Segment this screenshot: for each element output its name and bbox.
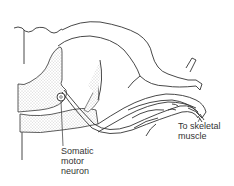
motor-neuron-cell-body bbox=[57, 93, 65, 101]
somatic-motor-neuron-label: Somatic motor neuron bbox=[61, 146, 94, 176]
gray-matter bbox=[18, 47, 101, 133]
to-skeletal-muscle-label: To skeletal muscle bbox=[178, 121, 221, 141]
spinal-cord-diagram bbox=[0, 0, 234, 186]
